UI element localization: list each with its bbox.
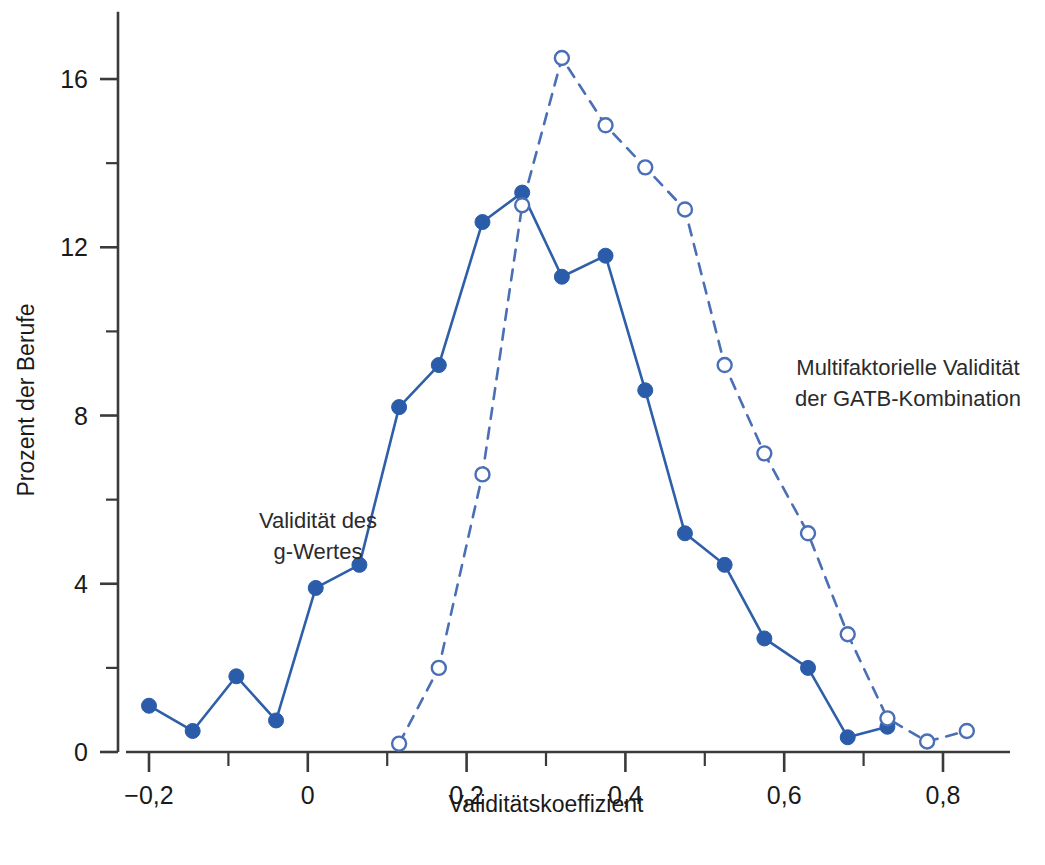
data-point-marker: [841, 627, 855, 641]
data-point-marker: [717, 557, 732, 572]
data-point-marker: [555, 51, 569, 65]
annotation-solid: Validität desg-Wertes: [259, 508, 377, 564]
y-tick-label: 4: [74, 570, 88, 598]
data-point-marker: [432, 661, 446, 675]
y-axis-label: Prozent der Berufe: [13, 303, 39, 496]
y-tick-label: 16: [60, 65, 88, 93]
annotation-line: der GATB-Kombination: [795, 386, 1021, 411]
annotation-line: g-Wertes: [274, 539, 363, 564]
x-tick-label: 0,6: [767, 781, 802, 809]
data-point-marker: [880, 711, 894, 725]
data-point-marker: [308, 580, 323, 595]
data-point-marker: [599, 118, 613, 132]
series-line-1: [149, 193, 887, 738]
axis-ticks: [100, 79, 943, 772]
y-tick-label: 8: [74, 402, 88, 430]
data-point-marker: [475, 467, 489, 481]
annotation-line: Multifaktorielle Validität: [796, 355, 1019, 380]
x-axis-label: Validitätskoeffizient: [449, 791, 644, 817]
axes: [118, 12, 1010, 752]
data-point-marker: [960, 724, 974, 738]
data-point-marker: [678, 202, 692, 216]
data-point-marker: [638, 160, 652, 174]
annotation-dashed: Multifaktorielle Validitätder GATB-Kombi…: [795, 355, 1021, 411]
data-point-marker: [677, 526, 692, 541]
data-point-marker: [757, 631, 772, 646]
data-point-marker: [840, 730, 855, 745]
data-point-marker: [801, 526, 815, 540]
data-point-marker: [920, 734, 934, 748]
data-point-marker: [598, 248, 613, 263]
data-point-marker: [757, 446, 771, 460]
data-point-marker: [229, 669, 244, 684]
x-tick-label: 0,8: [926, 781, 961, 809]
data-point-marker: [185, 723, 200, 738]
x-tick-label: −0,2: [124, 781, 173, 809]
data-point-marker: [554, 269, 569, 284]
data-point-marker: [475, 215, 490, 230]
y-tick-label: 12: [60, 233, 88, 261]
chart-figure: 0481216−0,200,20,40,60,8 Validitätskoeff…: [0, 0, 1045, 865]
data-point-marker: [718, 358, 732, 372]
x-tick-label: 0: [301, 781, 315, 809]
data-point-marker: [801, 660, 816, 675]
data-point-marker: [638, 383, 653, 398]
y-tick-label: 0: [74, 738, 88, 766]
data-point-marker: [269, 713, 284, 728]
line-chart-canvas: 0481216−0,200,20,40,60,8 Validitätskoeff…: [0, 0, 1045, 865]
data-point-marker: [392, 737, 406, 751]
annotation-line: Validität des: [259, 508, 377, 533]
data-point-marker: [392, 400, 407, 415]
data-point-marker: [431, 358, 446, 373]
data-point-marker: [515, 198, 529, 212]
data-point-marker: [142, 698, 157, 713]
